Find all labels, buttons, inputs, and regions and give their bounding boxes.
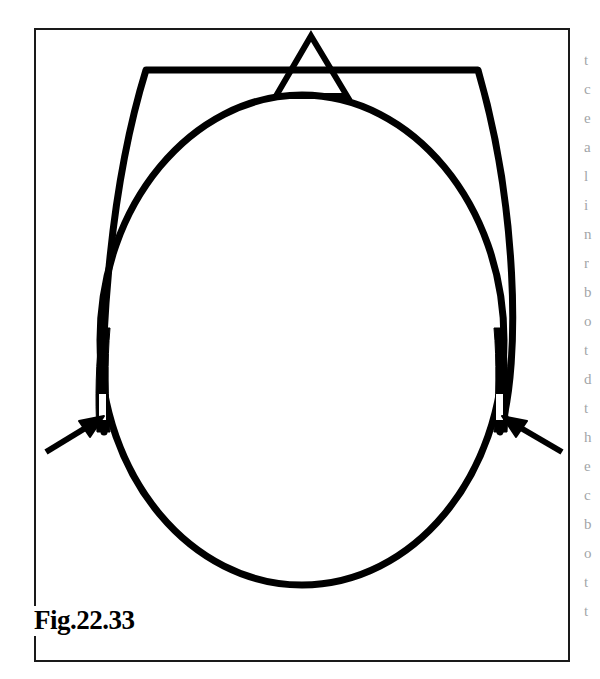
inner-oval-outline bbox=[100, 95, 504, 585]
figure-line-drawing bbox=[0, 0, 600, 679]
outer-arch-outline bbox=[103, 70, 513, 432]
figure-page: Fig.22.33 tcealinrbotdthecbott bbox=[0, 0, 600, 679]
apex-triangle bbox=[276, 36, 347, 96]
figure-caption: Fig.22.33 bbox=[30, 606, 139, 636]
